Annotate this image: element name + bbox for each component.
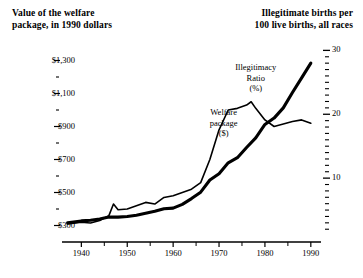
y-axis-tick-label: $1,100 bbox=[52, 89, 75, 98]
chart-container: Value of the welfare package, in 1990 do… bbox=[0, 0, 363, 278]
y-axis-tick-label: $1,300 bbox=[52, 56, 75, 65]
y2-axis-tick-label: 10 bbox=[332, 173, 341, 182]
welfare-package-line bbox=[68, 102, 311, 224]
x-axis-tick-label: 1980 bbox=[256, 249, 273, 258]
x-axis-tick-label: 1940 bbox=[73, 249, 90, 258]
plot-area bbox=[0, 0, 363, 278]
y-axis-tick-label: $700 bbox=[58, 155, 75, 164]
x-axis-tick-label: 1970 bbox=[211, 249, 228, 258]
y-axis-tick-label: $300 bbox=[58, 221, 75, 230]
illegitimacy-ratio-line bbox=[68, 63, 311, 223]
y2-axis-tick-label: 20 bbox=[332, 109, 341, 118]
y-axis-tick-label: $500 bbox=[58, 188, 75, 197]
x-axis-tick-label: 1990 bbox=[302, 249, 319, 258]
y-axis-tick-label: $900 bbox=[58, 122, 75, 131]
x-axis-tick-label: 1950 bbox=[119, 249, 136, 258]
x-axis-tick-label: 1960 bbox=[165, 249, 182, 258]
y2-axis-tick-label: 30 bbox=[332, 45, 341, 54]
